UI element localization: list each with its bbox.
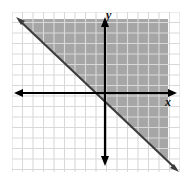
graph-figure: y x [0, 0, 192, 183]
graph-canvas [0, 0, 192, 183]
x-axis-label: x [165, 96, 171, 108]
y-axis-label: y [106, 9, 111, 21]
